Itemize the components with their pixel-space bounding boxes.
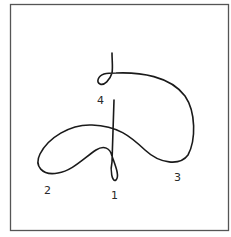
curve-diagram: 4 1 2 3 [0, 0, 231, 237]
point-label-1: 1 [111, 189, 118, 202]
point-label-3: 3 [174, 171, 181, 184]
point-label-4: 4 [97, 94, 104, 107]
point-label-2: 2 [44, 184, 51, 197]
